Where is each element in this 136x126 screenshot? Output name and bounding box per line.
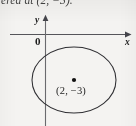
- y-axis-label: y: [35, 16, 39, 26]
- origin-label: 0: [35, 36, 41, 47]
- y-axis-arrowhead-icon: [43, 15, 49, 21]
- x-axis-label: x: [125, 38, 130, 48]
- center-point-marker: [72, 78, 76, 82]
- ellipse-figure: ered at (2, −3). y x 0 (2, −3): [0, 0, 136, 126]
- coordinate-plane-graphic: [0, 0, 136, 126]
- center-point-label: (2, −3): [56, 86, 86, 97]
